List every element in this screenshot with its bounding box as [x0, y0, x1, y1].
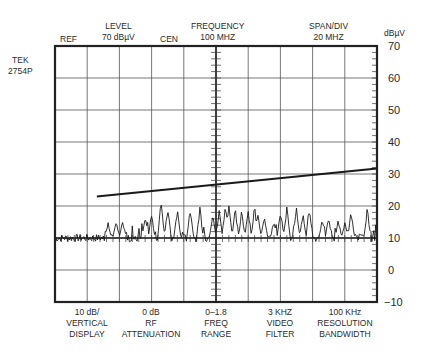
freq-range-setting: 0–1.8FREQRANGE: [184, 307, 248, 340]
limit-line: [97, 169, 377, 197]
video-filter-setting: 3 KHZVIDEOFILTER: [248, 307, 312, 340]
vertical-display-setting: 10 dB/VERTICALDISPLAY: [55, 307, 119, 340]
rf-attenuation-setting: 0 dBRFATTENUATION: [119, 307, 183, 340]
resolution-bandwidth-setting: 100 KHzRESOLUTIONBANDWIDTH: [313, 307, 377, 340]
spectrum-display: [0, 0, 424, 350]
